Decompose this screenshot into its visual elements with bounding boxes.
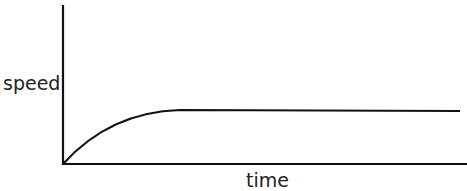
speed-curve [63,110,460,164]
x-axis-label: time [246,171,289,190]
chart-canvas [0,0,467,191]
y-axis-label: speed [3,74,60,93]
